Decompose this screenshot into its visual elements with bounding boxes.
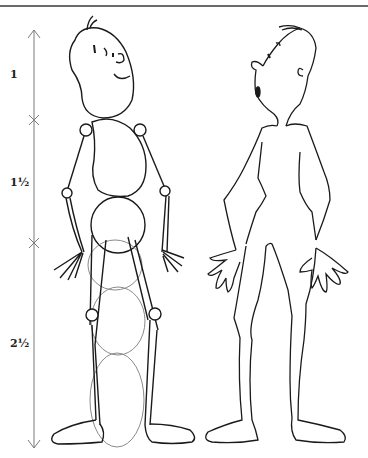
construction-figure — [52, 16, 195, 447]
finished-figure — [206, 26, 348, 443]
proportion-drawing — [0, 0, 368, 458]
measurement-axis — [28, 30, 40, 448]
